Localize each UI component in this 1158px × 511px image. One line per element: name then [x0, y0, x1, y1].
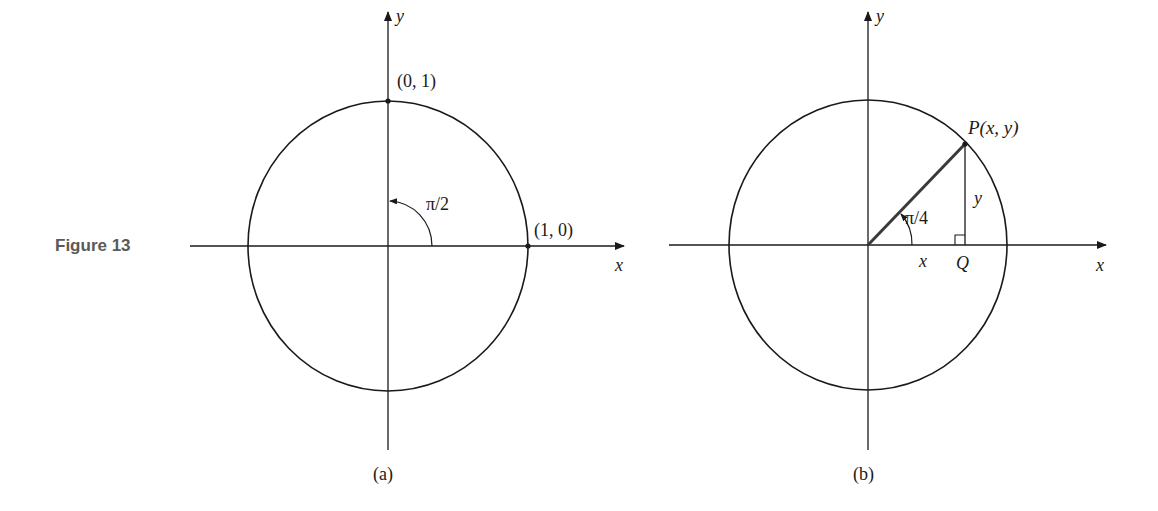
- radius-op: [868, 144, 965, 245]
- y-axis-label-b: y: [874, 6, 884, 26]
- point-right-label: (1, 0): [534, 220, 573, 241]
- angle-label-b: π/4: [905, 208, 928, 228]
- point-p-label: P(x, y): [967, 117, 1019, 139]
- caption-b: (b): [853, 464, 874, 485]
- x-axis-label-a: x: [614, 255, 623, 275]
- point-p-dot: [962, 141, 967, 146]
- x-axis-label-b: x: [1095, 255, 1104, 275]
- point-0-1-dot: [385, 98, 390, 103]
- panel-b: y x P(x, y) y x Q π/4 (b): [669, 6, 1106, 485]
- point-top-label: (0, 1): [397, 71, 436, 92]
- right-angle-mark: [955, 235, 965, 245]
- point-q-label: Q: [956, 253, 969, 273]
- segment-y-label: y: [972, 188, 982, 208]
- caption-a: (a): [373, 464, 393, 485]
- figure-canvas: Figure 13 y x (0, 1) (1, 0) π/2 (a) y x …: [0, 0, 1158, 511]
- panel-a: y x (0, 1) (1, 0) π/2 (a): [190, 6, 624, 485]
- angle-label-a: π/2: [426, 194, 449, 214]
- figure-label: Figure 13: [55, 236, 131, 255]
- segment-x-label: x: [918, 251, 927, 271]
- point-1-0-dot: [525, 243, 530, 248]
- y-axis-label-a: y: [394, 6, 404, 26]
